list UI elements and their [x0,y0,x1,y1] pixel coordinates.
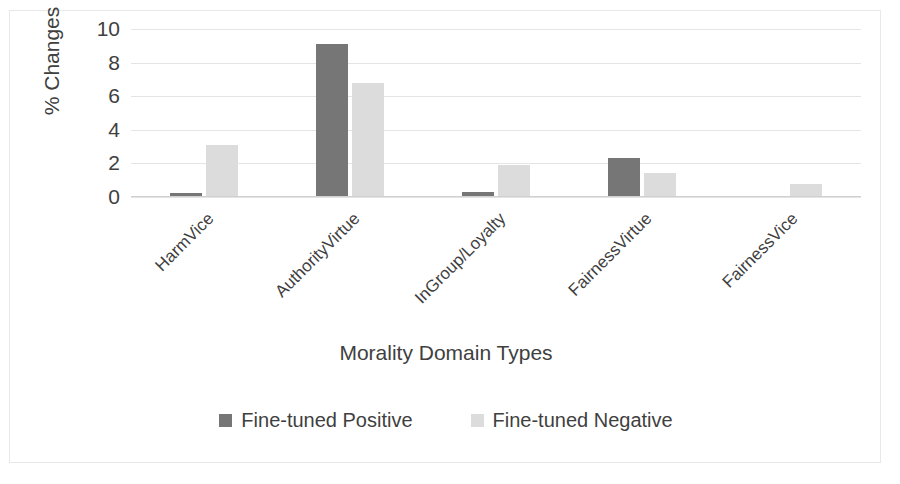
bar-fairnessvirtue-positive [608,158,640,197]
y-axis-tick-label: 10 [60,18,120,39]
bar-fairnessvirtue-negative [644,173,676,197]
x-axis-label-fairnessvice: FairnessVice [682,209,802,329]
x-axis-category-labels: HarmViceAuthorityVirtueInGroup/LoyaltyFa… [131,197,861,317]
x-axis-title: Morality Domain Types [10,341,882,365]
light-gray-swatch [471,414,484,427]
legend-label: Fine-tuned Positive [241,409,412,432]
plot-area [131,29,861,197]
gridline [131,163,861,164]
gridline [131,96,861,97]
legend-item-negative[interactable]: Fine-tuned Negative [471,409,673,432]
y-axis-tick-labels: 0246810 [60,29,120,197]
x-axis-label-authorityvirtue: AuthorityVirtue [244,209,364,329]
y-axis-tick-label: 0 [60,186,120,207]
chart-legend: Fine-tuned PositiveFine-tuned Negative [10,409,882,432]
x-axis-label-fairnessvirtue: FairnessVirtue [536,209,656,329]
y-axis-tick-label: 6 [60,85,120,106]
bar-ingroup-loyalty-negative [498,165,530,197]
gridline [131,63,861,64]
bar-harmvice-negative [206,145,238,197]
legend-item-positive[interactable]: Fine-tuned Positive [219,409,412,432]
chart-container: % Changes 0246810 HarmViceAuthorityVirtu… [9,10,881,463]
x-axis-label-harmvice: HarmVice [98,209,218,329]
bar-authorityvirtue-positive [316,44,348,197]
dark-gray-swatch [219,414,232,427]
bar-fairnessvice-negative [790,184,822,197]
y-axis-tick-label: 4 [60,119,120,140]
bar-authorityvirtue-negative [352,83,384,197]
gridline [131,130,861,131]
legend-label: Fine-tuned Negative [493,409,673,432]
gridline [131,29,861,30]
x-axis-label-ingroup-loyalty: InGroup/Loyalty [390,209,510,329]
y-axis-tick-label: 2 [60,152,120,173]
y-axis-tick-label: 8 [60,52,120,73]
